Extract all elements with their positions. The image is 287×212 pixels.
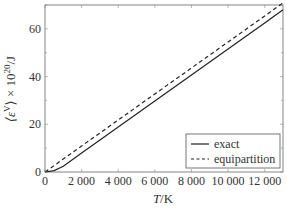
x-tick-label: 0 [42,174,48,188]
x-tick-label: 8 000 [178,174,205,188]
x-tick-label: 2 000 [68,174,95,188]
chart: 02 0004 0006 0008 00010 00012 000 020406… [0,0,287,212]
x-tick-label: 6 000 [141,174,168,188]
y-axis-label: ⟨εV⟩ × 1020/J [2,56,18,122]
y-tick-label: 40 [29,70,41,84]
y-tick-label: 60 [29,22,41,36]
legend-equipartition: equipartition [214,152,275,166]
legend-exact: exact [214,137,240,151]
y-tick-label: 20 [29,117,41,131]
x-tick-label: 4 000 [105,174,132,188]
legend: exact equipartition [186,134,280,168]
y-tick-label: 0 [35,165,41,179]
x-tick-label: 10 000 [212,174,245,188]
x-axis-label: T/K [153,191,174,206]
x-tick-label: 12 000 [248,174,281,188]
